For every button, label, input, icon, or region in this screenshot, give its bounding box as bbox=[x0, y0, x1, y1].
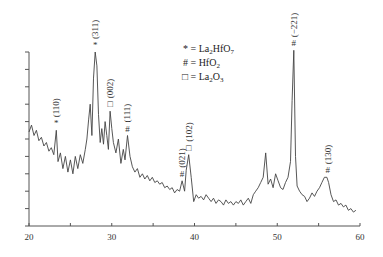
peak-miller-index: (−221) bbox=[289, 13, 299, 38]
legend-entry-la2hfo7: * = La2HfO7 bbox=[183, 43, 234, 56]
peak-miller-index: (111) bbox=[122, 104, 132, 123]
peak-marker: # bbox=[325, 165, 330, 175]
peak-marker: □ bbox=[186, 143, 192, 153]
peak-annotation: #(111) bbox=[122, 104, 132, 134]
peak-miller-index: (102) bbox=[184, 122, 194, 142]
x-tick-labels: 20 30 40 50 60 bbox=[25, 232, 366, 242]
peak-marker: # bbox=[125, 124, 130, 134]
x-tick-label: 40 bbox=[190, 232, 200, 242]
legend-entry-hfo2: # = HfO2 bbox=[183, 57, 220, 70]
x-tick-label: 50 bbox=[273, 232, 283, 242]
x-tick-label: 60 bbox=[356, 232, 366, 242]
peak-marker: # bbox=[180, 169, 185, 179]
peak-miller-index: (311) bbox=[90, 20, 100, 39]
peak-miller-index: (110) bbox=[51, 98, 61, 117]
xrd-chart: 20 30 40 50 60 *(110)*(311)□(002)#(111)#… bbox=[0, 0, 383, 257]
peak-marker: □ bbox=[107, 99, 113, 109]
peak-miller-index: (002) bbox=[105, 79, 115, 99]
peak-annotation: *(110) bbox=[51, 98, 61, 128]
peak-annotation: #(−221) bbox=[289, 13, 299, 49]
legend: * = La2HfO7 # = HfO2 □ = La2O3 bbox=[182, 43, 234, 84]
peak-annotation: □(002) bbox=[105, 79, 115, 110]
y-ticks bbox=[25, 52, 29, 226]
x-tick-label: 20 bbox=[25, 232, 35, 242]
legend-entry-la2o3: □ = La2O3 bbox=[182, 71, 224, 84]
peak-miller-index: (130) bbox=[323, 145, 333, 165]
x-tick-label: 30 bbox=[107, 232, 117, 242]
peak-annotation: *(311) bbox=[90, 20, 100, 50]
peak-annotation: □(102) bbox=[184, 122, 194, 153]
peak-marker: # bbox=[292, 38, 297, 48]
peak-annotation: #(130) bbox=[323, 145, 333, 176]
peak-marker: * bbox=[93, 40, 98, 50]
peak-marker: * bbox=[54, 118, 59, 128]
